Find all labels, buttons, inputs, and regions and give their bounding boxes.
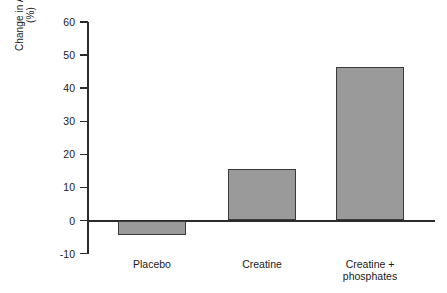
- x-axis-label-2: Creatine +phosphates: [315, 258, 425, 282]
- y-axis-tick-label: 20: [35, 148, 75, 160]
- x-axis-label-line2: phosphates: [343, 270, 397, 282]
- x-axis-label-1: Creatine: [207, 258, 317, 270]
- y-axis-tick: [80, 154, 88, 156]
- y-axis-tick-label: 0: [35, 215, 75, 227]
- bar-creatine-phosphates: [336, 67, 404, 221]
- y-axis-tick-label: 50: [35, 49, 75, 61]
- x-axis-label-0: Placebo: [97, 258, 207, 270]
- y-axis-tick-label: 60: [35, 16, 75, 28]
- y-axis-tick: [80, 87, 88, 89]
- x-axis-label-line1: Placebo: [133, 258, 171, 270]
- y-axis-tick: [80, 54, 88, 56]
- y-axis-tick-label: -10: [35, 248, 75, 260]
- y-axis-tick: [80, 253, 88, 255]
- bar-chart: Change in AWC (%) -100102030405060 Place…: [0, 0, 447, 293]
- y-axis-tick-label: 10: [35, 181, 75, 193]
- y-axis-tick-label: 40: [35, 82, 75, 94]
- y-axis-tick: [80, 220, 88, 222]
- x-axis-label-line1: Creatine +: [346, 258, 395, 270]
- y-axis-tick: [80, 21, 88, 23]
- bar-placebo: [118, 221, 186, 236]
- bar-creatine: [228, 169, 296, 221]
- plot-area: -100102030405060 PlaceboCreatineCreatine…: [0, 0, 447, 293]
- x-axis-label-line1: Creatine: [242, 258, 282, 270]
- y-axis-tick-label: 30: [35, 115, 75, 127]
- y-axis-tick: [80, 187, 88, 189]
- y-axis-tick: [80, 121, 88, 123]
